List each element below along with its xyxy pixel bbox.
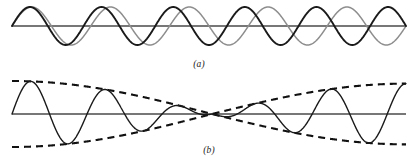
panel-b-label: (b) (203, 145, 215, 155)
wave-superposition-figure (0, 0, 416, 163)
panel-a-label: (a) (193, 59, 205, 69)
